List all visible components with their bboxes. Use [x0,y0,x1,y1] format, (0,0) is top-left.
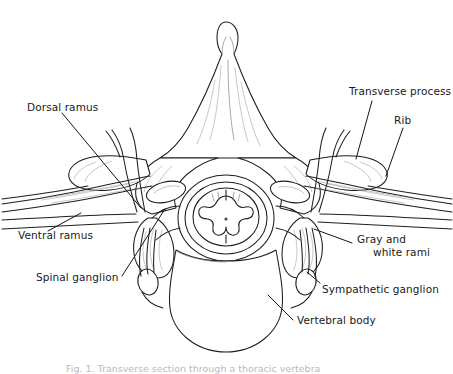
figure-caption-clipped: Fig. 1. Transverse section through a tho… [0,364,453,374]
vertebra-illustration [0,0,453,374]
spinal-cord [178,175,274,261]
ventral-ramus-left [2,214,138,229]
figure-caption-text: Fig. 1. Transverse section through a tho… [66,364,320,374]
label-rib: Rib [394,114,411,127]
label-sympathetic-ganglion: Sympathetic ganglion [322,283,439,296]
leader-rib [386,128,403,176]
spinous-process [160,22,296,158]
vertebral-body [169,250,282,352]
label-ventral-ramus: Ventral ramus [18,229,93,242]
ventral-ramus-right [318,214,452,229]
label-spinal-ganglion: Spinal ganglion [36,271,118,284]
label-vertebral-body: Vertebral body [297,314,376,327]
anatomical-figure: Dorsal ramus Ventral ramus Spinal gangli… [0,0,453,374]
leader-transverse-process [356,101,372,159]
label-gray-and-white-rami-line1: Gray and [357,233,406,246]
label-transverse-process: Transverse process [349,85,451,98]
label-gray-and-white-rami-line2: white rami [357,246,430,259]
label-dorsal-ramus: Dorsal ramus [27,101,98,114]
